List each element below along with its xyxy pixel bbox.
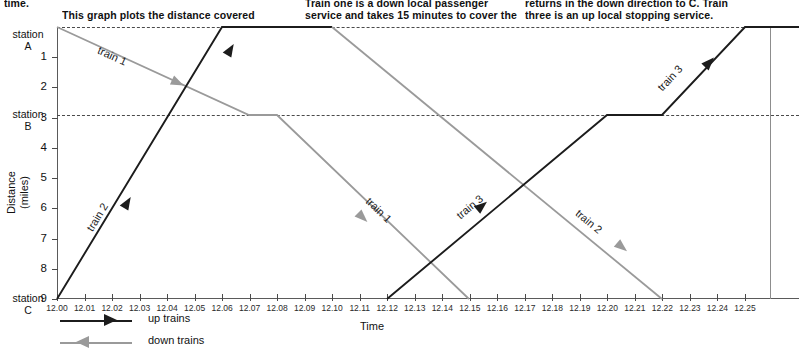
station-b-line-2: B [2,120,54,132]
y-tick-8 [52,269,58,270]
caption-a-line-1: time. [4,0,297,9]
station-b-line-1: station [2,108,54,120]
station-label-b: station B [2,108,54,132]
y-tick-label-1: 1 [31,50,47,62]
y-tick-label-5: 5 [31,171,47,183]
train-2-down-arrowhead [614,239,630,255]
x-tick-12.00 [57,294,58,301]
legend-down-line [60,342,132,344]
legend-down-label: down trains [148,334,204,346]
x-tick-12.07 [250,294,251,301]
train-2-up-path [57,27,332,299]
x-axis-title: Time [360,320,384,332]
x-tick-12.25 [745,294,746,301]
caption-c-line-1: returns in the down direction to C. Trai… [525,0,755,9]
x-tick-12.18 [552,294,553,301]
train-1-label-right: train 1 [364,195,394,225]
train-graph-page: time. This graph plots the distance cove… [0,0,799,359]
x-tick-12.17 [525,294,526,301]
train-3-arrowhead-2 [701,54,717,70]
y-tick-1 [52,57,58,58]
plot-right-border [770,27,771,299]
train-1-arrowhead-1 [170,75,186,90]
x-tick-12.08 [277,294,278,301]
y-tick-label-2: 2 [31,80,47,92]
x-tick-label-12.25: 12.25 [725,303,765,313]
y-axis-title: Distance (miles) [5,158,30,228]
y-tick-7 [52,239,58,240]
x-tick-12.12 [387,294,388,301]
station-a-guide-line [57,27,799,28]
caption-b-line-2: service and takes 15 minutes to cover th… [305,9,520,21]
x-tick-12.24 [717,294,718,301]
x-tick-12.23 [690,294,691,301]
y-axis-line [57,27,58,299]
x-tick-12.20 [607,294,608,301]
caption-column-c: returns in the down direction to C. Trai… [525,0,755,21]
x-tick-12.10 [332,294,333,301]
caption-column-a: time. This graph plots the distance cove… [62,0,297,21]
x-tick-12.02 [112,294,113,301]
train-1-label-left: train 1 [96,44,129,68]
y-tick-5 [52,178,58,179]
y-tick-label-7: 7 [31,232,47,244]
legend-up-label: up trains [148,312,190,324]
x-tick-12.14 [442,294,443,301]
x-tick-12.15 [470,294,471,301]
y-tick-4 [52,148,58,149]
x-tick-12.05 [195,294,196,301]
legend-up-line [60,320,132,322]
y-axis-title-line-1: Distance [5,158,18,228]
x-tick-12.06 [222,294,223,301]
x-tick-12.22 [662,294,663,301]
train-1-arrowhead-2 [355,209,371,225]
x-tick-12.09 [305,294,306,301]
train-3-path [387,27,799,299]
x-axis-line [57,298,799,299]
y-tick-label-6: 6 [31,201,47,213]
caption-c-line-2: three is an up local stopping service. [525,9,755,21]
station-a-line-2: A [2,40,54,52]
train-2-label-left: train 2 [84,201,110,233]
station-b-guide-line [57,115,799,116]
y-tick-6 [52,208,58,209]
train-1-path [57,27,469,299]
arrow-right-icon [104,314,117,326]
y-tick-label-4: 4 [31,141,47,153]
train-3-label-left: train 3 [454,192,485,221]
caption-b-line-1: Train one is a down local passenger [305,0,520,9]
caption-a-line-2: This graph plots the distance covered [62,9,297,21]
train-2-up-arrowhead-1 [120,194,135,210]
train-2-up-arrowhead-2 [223,41,238,57]
x-tick-12.04 [167,294,168,301]
x-tick-12.16 [497,294,498,301]
caption-column-b: Train one is a down local passenger serv… [305,0,520,21]
arrow-left-icon [76,336,89,348]
x-tick-12.21 [635,294,636,301]
x-tick-12.19 [580,294,581,301]
x-tick-12.13 [415,294,416,301]
train-3-label-right: train 3 [655,63,685,93]
train-2-label-right: train 2 [573,207,604,236]
x-tick-12.11 [360,294,361,301]
y-axis-title-line-2: (miles) [17,158,30,228]
x-tick-12.01 [85,294,86,301]
train-2-down-path [332,27,662,299]
station-label-a: station A [2,28,54,52]
station-a-line-1: station [2,28,54,40]
y-tick-2 [52,87,58,88]
x-tick-12.03 [140,294,141,301]
y-tick-label-8: 8 [31,262,47,274]
